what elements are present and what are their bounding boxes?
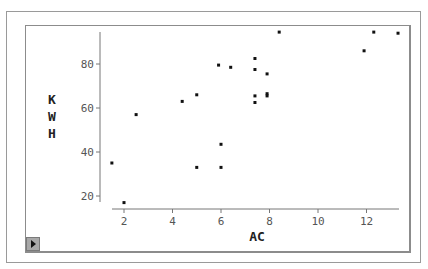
data-points <box>110 31 399 205</box>
data-point <box>266 72 269 75</box>
x-tick-label: 4 <box>169 215 176 228</box>
data-point <box>220 143 223 146</box>
y-tick-label: 60 <box>81 102 94 115</box>
data-point <box>135 113 138 116</box>
x-axis-title: AC <box>249 229 265 244</box>
x-tick-label: 12 <box>360 215 373 228</box>
data-point <box>123 201 126 204</box>
y-axis-title: KWH <box>48 92 56 141</box>
data-point <box>195 93 198 96</box>
data-point <box>181 100 184 103</box>
x-tick-label: 6 <box>218 215 225 228</box>
data-point <box>229 66 232 69</box>
data-point <box>253 68 256 71</box>
y-tick-label: 80 <box>81 58 94 71</box>
x-tick-label: 2 <box>121 215 128 228</box>
data-point <box>278 31 281 34</box>
data-point <box>363 49 366 52</box>
play-triangle-icon <box>27 238 39 250</box>
data-point <box>253 94 256 97</box>
data-point <box>397 32 400 35</box>
x-tick-label: 8 <box>266 215 273 228</box>
scatter-plot: 20406080 24681012 AC KWH <box>0 0 428 269</box>
y-axis-title-letter: K <box>48 92 56 107</box>
y-axis-title-letter: W <box>48 109 56 124</box>
y-axis: 20406080 <box>81 32 100 203</box>
y-tick-label: 20 <box>81 190 94 203</box>
data-point <box>220 166 223 169</box>
data-point <box>253 57 256 60</box>
data-point <box>266 94 269 97</box>
x-axis: 24681012 <box>112 209 399 228</box>
data-point <box>195 166 198 169</box>
x-tick-label: 10 <box>311 215 324 228</box>
data-point <box>253 101 256 104</box>
data-point <box>217 64 220 67</box>
data-point <box>372 31 375 34</box>
y-tick-label: 40 <box>81 146 94 159</box>
play-button[interactable] <box>26 237 40 251</box>
data-point <box>110 162 113 165</box>
y-axis-title-letter: H <box>48 126 56 141</box>
